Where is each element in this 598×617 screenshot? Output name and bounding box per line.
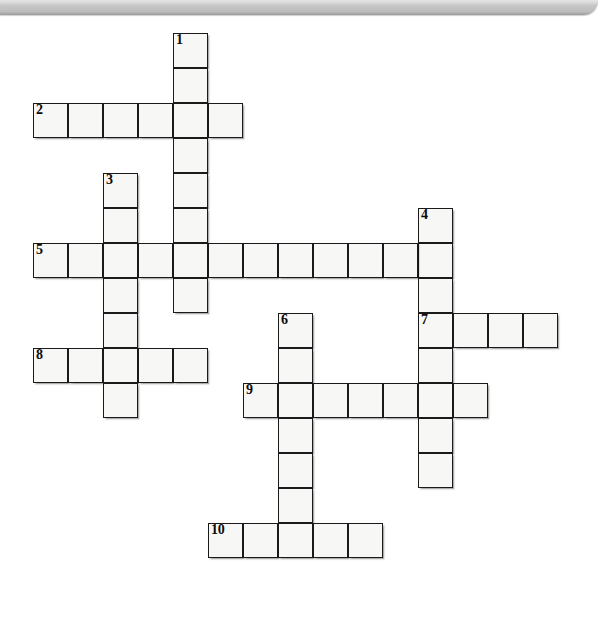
crossword-cell[interactable]	[278, 418, 313, 453]
crossword-cell[interactable]	[173, 243, 208, 278]
clue-number-7: 7	[421, 312, 428, 328]
crossword-cell[interactable]	[313, 383, 348, 418]
crossword-cell[interactable]	[313, 243, 348, 278]
crossword-cell[interactable]	[173, 278, 208, 313]
crossword-cell[interactable]	[138, 348, 173, 383]
crossword-cell-numbered-2[interactable]: 2	[33, 103, 68, 138]
clue-number-8: 8	[36, 347, 43, 363]
crossword-cell[interactable]	[103, 103, 138, 138]
crossword-cell[interactable]	[173, 208, 208, 243]
crossword-cell[interactable]	[488, 313, 523, 348]
crossword-cell[interactable]	[173, 103, 208, 138]
crossword-cell-numbered-1[interactable]: 1	[173, 33, 208, 68]
crossword-cell[interactable]	[103, 313, 138, 348]
clue-number-9: 9	[246, 382, 253, 398]
crossword-cell[interactable]	[243, 243, 278, 278]
crossword-cell[interactable]	[313, 523, 348, 558]
crossword-cell[interactable]	[348, 383, 383, 418]
crossword-cell[interactable]	[68, 103, 103, 138]
crossword-cell[interactable]	[278, 348, 313, 383]
crossword-cell-numbered-10[interactable]: 10	[208, 523, 243, 558]
crossword-grid[interactable]: 12345678910	[0, 0, 598, 617]
crossword-cell[interactable]	[173, 138, 208, 173]
crossword-cell[interactable]	[103, 348, 138, 383]
clue-number-5: 5	[36, 242, 43, 258]
crossword-cell[interactable]	[173, 173, 208, 208]
crossword-cell-numbered-9[interactable]: 9	[243, 383, 278, 418]
crossword-cell[interactable]	[453, 383, 488, 418]
crossword-cell[interactable]	[453, 313, 488, 348]
clue-number-2: 2	[36, 102, 43, 118]
crossword-cell[interactable]	[418, 278, 453, 313]
crossword-cell[interactable]	[138, 103, 173, 138]
crossword-cell[interactable]	[278, 523, 313, 558]
crossword-cell[interactable]	[103, 278, 138, 313]
crossword-cell[interactable]	[278, 488, 313, 523]
crossword-cell[interactable]	[173, 68, 208, 103]
crossword-cell-numbered-4[interactable]: 4	[418, 208, 453, 243]
crossword-cell[interactable]	[348, 523, 383, 558]
crossword-cell[interactable]	[103, 208, 138, 243]
clue-number-6: 6	[281, 312, 288, 328]
clue-number-10: 10	[211, 522, 224, 538]
crossword-cell[interactable]	[103, 383, 138, 418]
crossword-cell[interactable]	[243, 523, 278, 558]
crossword-cell[interactable]	[103, 243, 138, 278]
crossword-cell-numbered-7[interactable]: 7	[418, 313, 453, 348]
crossword-cell[interactable]	[418, 348, 453, 383]
crossword-cell[interactable]	[418, 453, 453, 488]
crossword-cell[interactable]	[173, 348, 208, 383]
crossword-cell[interactable]	[348, 243, 383, 278]
crossword-cell[interactable]	[278, 383, 313, 418]
crossword-cell[interactable]	[208, 103, 243, 138]
crossword-cell-numbered-8[interactable]: 8	[33, 348, 68, 383]
clue-number-4: 4	[421, 207, 428, 223]
crossword-cell[interactable]	[418, 383, 453, 418]
crossword-cell[interactable]	[68, 348, 103, 383]
clue-number-3: 3	[106, 172, 113, 188]
crossword-cell[interactable]	[383, 243, 418, 278]
crossword-cell[interactable]	[383, 383, 418, 418]
crossword-cell-numbered-5[interactable]: 5	[33, 243, 68, 278]
crossword-cell[interactable]	[138, 243, 173, 278]
crossword-cell[interactable]	[208, 243, 243, 278]
crossword-cell[interactable]	[418, 418, 453, 453]
crossword-cell[interactable]	[68, 243, 103, 278]
clue-number-1: 1	[176, 32, 183, 48]
crossword-cell-numbered-3[interactable]: 3	[103, 173, 138, 208]
crossword-cell[interactable]	[418, 243, 453, 278]
crossword-cell[interactable]	[278, 243, 313, 278]
crossword-cell[interactable]	[523, 313, 558, 348]
crossword-cell-numbered-6[interactable]: 6	[278, 313, 313, 348]
crossword-cell[interactable]	[278, 453, 313, 488]
